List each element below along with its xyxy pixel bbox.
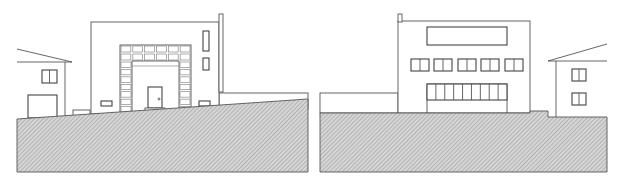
neighbor-roof-line: [17, 49, 72, 62]
chimney: [219, 14, 223, 92]
ground-section-hatch: [17, 99, 308, 172]
left-elevation-panel: [17, 14, 308, 172]
elevation-drawing: [0, 0, 619, 182]
elevation-canvas: [0, 0, 619, 182]
small-window: [101, 101, 112, 106]
tall-window: [203, 31, 209, 51]
garage-glazing-band: [427, 84, 507, 100]
neighbor-roof-line: [548, 44, 607, 61]
ground-section-hatch: [320, 111, 607, 172]
garden-wall: [320, 93, 398, 113]
right-elevation-panel: [320, 14, 607, 172]
chimney: [398, 14, 402, 22]
tall-window: [203, 58, 209, 70]
small-window: [199, 101, 210, 106]
ribbon-window: [427, 27, 507, 45]
entrance-door: [148, 87, 162, 108]
neighbor-garage-door: [28, 95, 57, 118]
